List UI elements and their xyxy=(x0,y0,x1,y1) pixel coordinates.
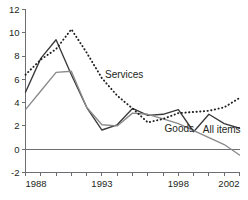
y-tick-label: 0 xyxy=(14,144,19,155)
x-axis-tick-labels: 1988199319982002 xyxy=(26,178,240,189)
y-tick-label: 6 xyxy=(14,74,19,85)
chart-canvas: -2024681012 1988199319982002 ServicesGoo… xyxy=(0,0,248,200)
annotation-goods: Goods xyxy=(165,123,194,134)
y-axis-ticks xyxy=(22,10,26,173)
y-tick-label: 2 xyxy=(14,120,19,131)
y-axis-tick-labels: -2024681012 xyxy=(9,4,20,178)
annotation-all-items: All items xyxy=(203,124,241,135)
line-chart: -2024681012 1988199319982002 ServicesGoo… xyxy=(0,0,248,200)
y-tick-label: 4 xyxy=(14,97,19,108)
series-line-goods xyxy=(26,71,240,155)
series-line-all-items xyxy=(26,40,240,132)
x-tick-label: 2002 xyxy=(218,178,239,189)
x-tick-label: 1993 xyxy=(91,178,112,189)
y-tick-label: -2 xyxy=(11,167,19,178)
x-tick-label: 1998 xyxy=(168,178,189,189)
y-tick-label: 12 xyxy=(9,4,20,15)
x-tick-label: 1988 xyxy=(26,178,47,189)
y-tick-label: 10 xyxy=(9,27,20,38)
annotation-services: Services xyxy=(105,69,143,80)
data-series-group xyxy=(26,29,240,155)
y-tick-label: 8 xyxy=(14,50,19,61)
x-axis-ticks xyxy=(26,173,240,177)
